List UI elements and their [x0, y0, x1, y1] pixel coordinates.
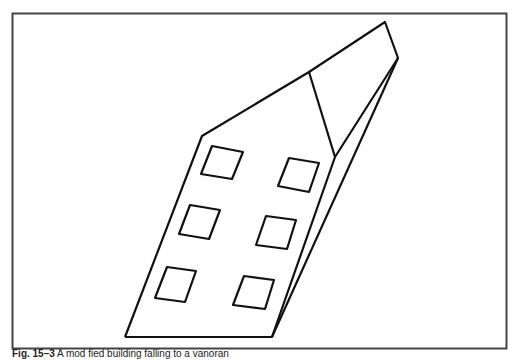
window [278, 158, 319, 192]
figure-caption: Fig. 15–3 A mod fied building falling to… [12, 348, 229, 360]
window [233, 276, 274, 309]
window [256, 216, 296, 249]
gable-line [309, 72, 335, 157]
caption-text: A mod fied building falling to a vanoran [57, 348, 229, 359]
building-front-wall [125, 22, 398, 337]
window [155, 267, 196, 302]
window [179, 205, 220, 239]
window [201, 146, 243, 179]
building [125, 22, 398, 337]
caption-label: Fig. 15–3 [12, 348, 55, 359]
figure-frame [13, 14, 507, 349]
side-wall-edge [272, 58, 398, 337]
